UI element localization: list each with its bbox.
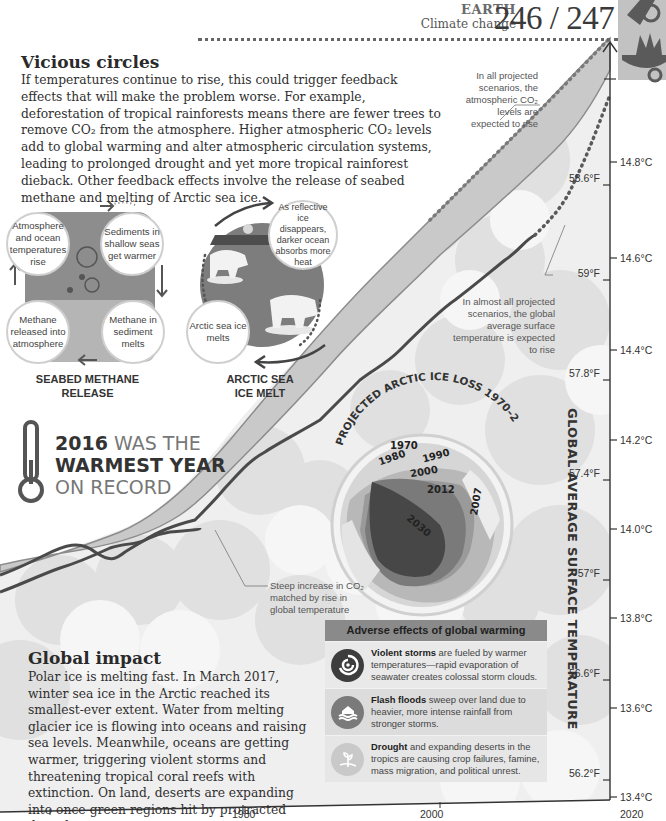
fahrenheit-tick-label: 56.2°F (569, 767, 600, 779)
seabed-step-3: Methane in sediment melts (101, 300, 165, 364)
storm-icon (331, 649, 364, 682)
effect-row-storms: Violent storms are fueled by warmer temp… (325, 641, 547, 688)
adverse-effects-box: Adverse effects of global warming Violen… (325, 620, 547, 782)
fahrenheit-tick-label: 57.8°F (569, 367, 600, 379)
celsius-tick-label: 13.4°C (620, 791, 652, 803)
celsius-tick-label: 14.6°C (620, 252, 652, 264)
fahrenheit-tick-label: 57.4°F (569, 467, 600, 479)
vicious-circles-heading: Vicious circles (21, 52, 159, 72)
x-tick-label: 2020 (620, 808, 643, 820)
celsius-tick-label: 14.2°C (620, 434, 652, 446)
fahrenheit-tick-label: 59°F (578, 267, 600, 279)
seabed-methane-label: SEABED METHANE RELEASE (30, 372, 145, 400)
global-impact-body: Polar ice is melting fast. In March 2017… (28, 669, 320, 821)
warmest-year-callout: 2016 WAS THE WARMEST YEAR ON RECORD (55, 432, 226, 498)
fahrenheit-tick-label: 57°F (578, 567, 600, 579)
drought-icon (331, 743, 364, 776)
arctic-step-2: Arctic sea ice melts (186, 300, 250, 364)
page-numbers: 246 / 247 (494, 0, 614, 37)
global-impact-heading: Global impact (28, 648, 161, 668)
earth-science-icon (618, 0, 666, 81)
x-tick-label: 2000 (420, 808, 443, 820)
temp-projection-note: In almost all projected scenarios, the g… (445, 296, 555, 356)
celsius-tick-label: 14.8°C (620, 156, 652, 168)
celsius-tick-label: 14.4°C (620, 344, 652, 356)
steep-increase-note: Steep increase in CO₂ matched by rise in… (270, 580, 370, 616)
effect-row-floods: Flash floods sweep over land due to heav… (325, 688, 547, 735)
vicious-circles-body: If temperatures continue to rise, this c… (21, 72, 441, 206)
fahrenheit-tick-label: 56.6°F (569, 667, 600, 679)
arctic-sea-ice-label: ARCTIC SEA ICE MELT (210, 372, 310, 400)
effect-row-drought: Drought and expanding deserts in the tro… (325, 735, 547, 782)
co2-projection-note: In all projected scenarios, the atmosphe… (458, 70, 538, 130)
map-year-2012: 2012 (427, 484, 455, 495)
seabed-step-1: Atmosphere and ocean temperatures rise (6, 212, 70, 276)
fahrenheit-tick-label: 58.6°F (569, 172, 600, 184)
adverse-effects-title: Adverse effects of global warming (325, 620, 547, 641)
arctic-step-1: As reflective ice disappears, darker oce… (268, 200, 338, 270)
celsius-tick-label: 13.6°C (620, 702, 652, 714)
thermometer-icon (17, 420, 45, 505)
header-divider (198, 38, 618, 41)
flood-icon (331, 696, 364, 729)
celsius-tick-label: 14.0°C (620, 523, 652, 535)
seabed-step-4: Methane released into atmosphere (6, 300, 70, 364)
seabed-step-2: Sediments in shallow seas get warmer (100, 212, 164, 276)
celsius-tick-label: 13.8°C (620, 612, 652, 624)
